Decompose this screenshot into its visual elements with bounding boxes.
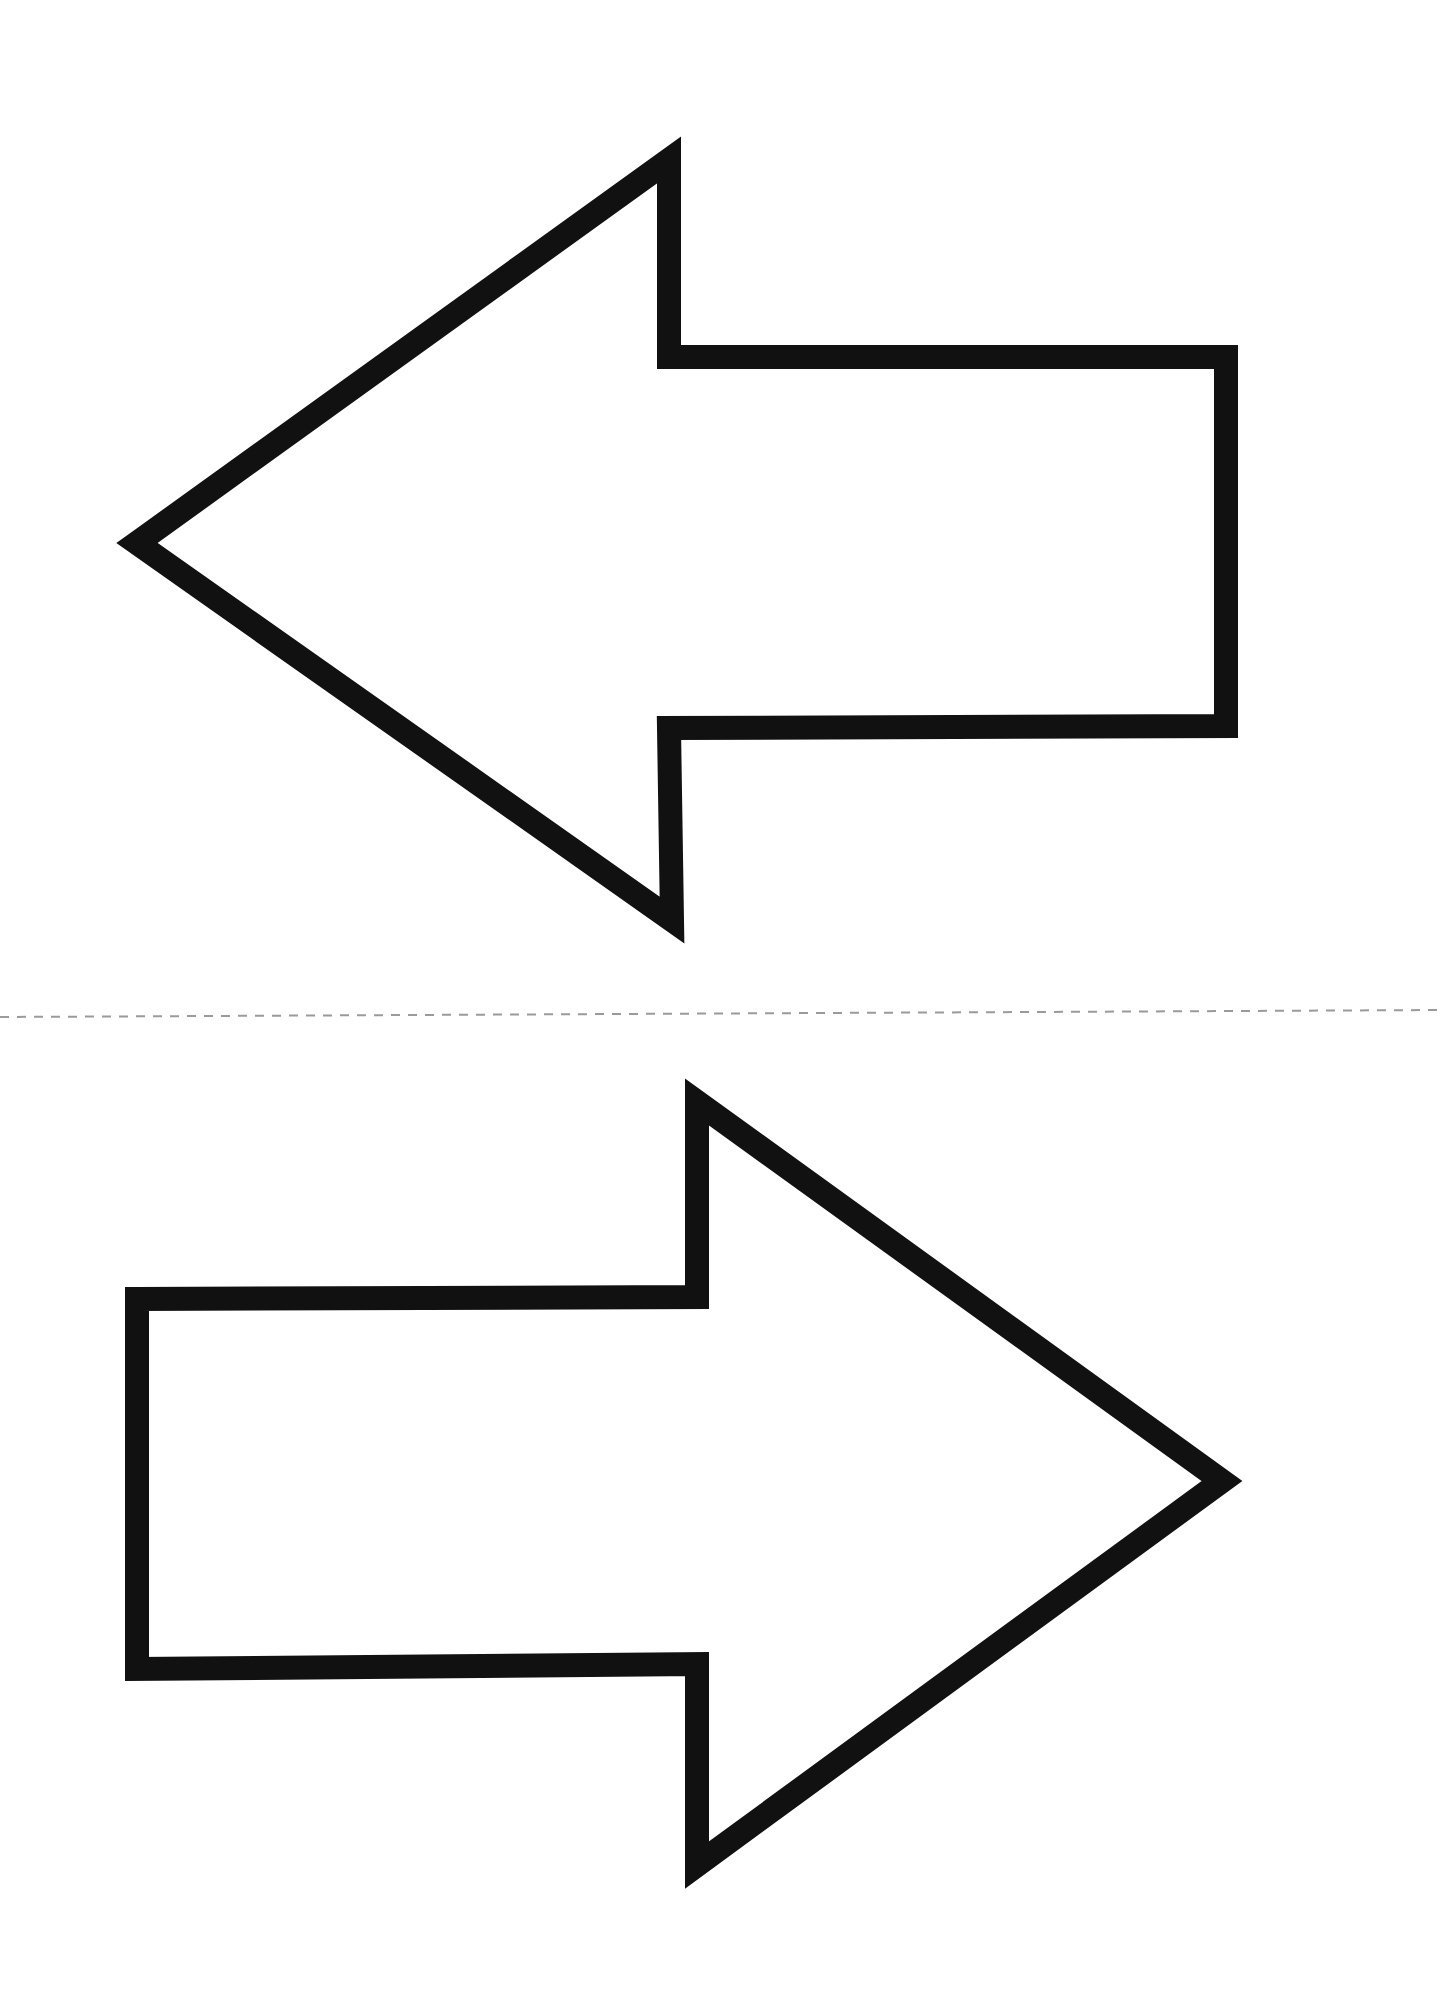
cut-line [0, 1010, 1441, 1017]
canvas [0, 0, 1441, 2009]
left-arrow-icon [137, 160, 1226, 920]
right-arrow-icon [137, 1102, 1222, 1865]
